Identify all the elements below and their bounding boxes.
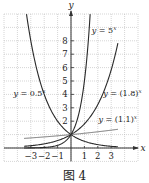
x-axis-label: x — [140, 143, 145, 153]
y-tick-label: 6 — [62, 63, 67, 73]
x-tick-label: 1 — [82, 151, 87, 161]
y-tick-label: 3 — [62, 103, 67, 113]
x-tick-label: −2 — [38, 151, 51, 161]
curve-label: y = 5x — [91, 25, 117, 35]
y-tick-label: 4 — [62, 89, 67, 99]
y-axis-arrow-icon — [69, 10, 73, 16]
labels: xy−3−2−11232345678y = 5xy = (1.8)xy = (1… — [12, 0, 145, 161]
y-tick-label: 7 — [62, 49, 67, 59]
y-tick-label: 8 — [62, 36, 67, 46]
y-tick-label: 5 — [62, 76, 67, 86]
x-tick-label: 3 — [108, 151, 113, 161]
curve-label: y = (1.8)x — [102, 88, 142, 98]
exponential-functions-chart: xy−3−2−11232345678y = 5xy = (1.8)xy = (1… — [0, 0, 149, 165]
y-axis-label: y — [67, 0, 74, 10]
curve-label: y = 0.5x — [12, 88, 46, 98]
y-tick-label: 2 — [62, 116, 67, 126]
figure-caption: 图 4 — [0, 166, 149, 183]
x-tick-label: −1 — [51, 151, 64, 161]
curve-label: y = (1.1)x — [97, 114, 137, 124]
x-tick-label: −3 — [25, 151, 38, 161]
x-tick-label: 2 — [95, 151, 100, 161]
